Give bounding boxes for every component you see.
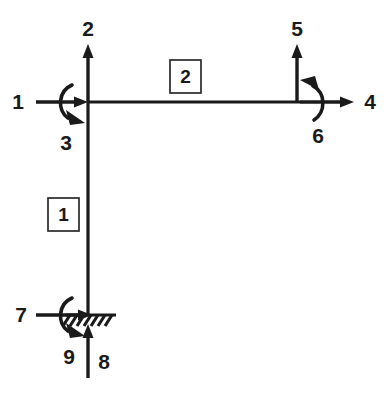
frame-members bbox=[88, 102, 300, 316]
dof-5-arrowhead bbox=[292, 44, 303, 58]
dof-2-arrowhead bbox=[83, 44, 94, 58]
dof-3-arrowhead bbox=[66, 110, 85, 125]
dof-4-force-arrow bbox=[300, 97, 354, 108]
dof-label-2: 2 bbox=[82, 17, 94, 40]
structural-frame-diagram: 1 2 1 2 3 4 5 6 7 8 9 bbox=[0, 0, 390, 393]
dof-label-3: 3 bbox=[60, 131, 72, 154]
dof-5-force-arrow bbox=[292, 44, 303, 102]
dof-label-5: 5 bbox=[291, 17, 303, 40]
member-1-label-text: 1 bbox=[58, 204, 69, 225]
dof-2-force-arrow bbox=[83, 44, 94, 102]
dof-label-6: 6 bbox=[312, 124, 324, 147]
frame-diagram-canvas: 1 2 1 2 3 4 5 6 7 8 9 bbox=[0, 0, 390, 393]
dof-label-9: 9 bbox=[63, 345, 75, 368]
dof-label-4: 4 bbox=[364, 90, 376, 113]
hatch-mark bbox=[105, 315, 112, 326]
dof-6-arrowhead bbox=[300, 76, 319, 90]
dof-8-force-arrow bbox=[83, 324, 94, 378]
dof-9-arrowhead bbox=[66, 323, 85, 338]
hatch-mark bbox=[91, 315, 98, 326]
hatch-mark bbox=[98, 315, 105, 326]
dof-1-arrowhead bbox=[74, 97, 88, 108]
member-2-label-text: 2 bbox=[180, 66, 191, 87]
dof-3-moment-arrow bbox=[61, 85, 85, 125]
dof-4-arrowhead bbox=[340, 97, 354, 108]
member-1-label: 1 bbox=[48, 198, 79, 231]
dof-label-8: 8 bbox=[98, 350, 110, 373]
member-2-label: 2 bbox=[170, 60, 201, 93]
dof-label-7: 7 bbox=[15, 303, 27, 326]
dof-6-moment-arrow bbox=[300, 76, 323, 120]
dof-label-1: 1 bbox=[12, 90, 24, 113]
dof-7-force-arrow bbox=[36, 310, 92, 321]
